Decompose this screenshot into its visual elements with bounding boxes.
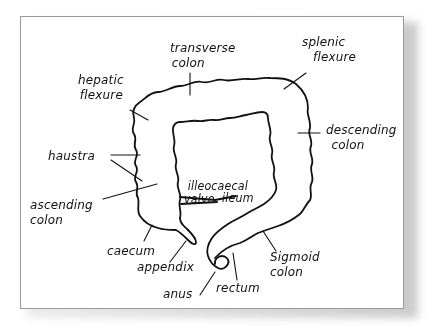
label-ascending-line2: colon <box>30 212 93 227</box>
label-anus: anus <box>163 286 192 301</box>
label-hepatic-line2: flexure <box>78 87 124 102</box>
label-descending-colon: descending colon <box>326 122 397 152</box>
label-hepatic-flexure: hepatic flexure <box>78 72 124 102</box>
label-transverse-line1: transverse <box>170 40 236 55</box>
label-sigmoid-line2: colon <box>270 264 320 279</box>
label-ascending-colon: ascending colon <box>30 197 93 227</box>
appendix-outline <box>180 218 188 230</box>
label-descending-line2: colon <box>326 137 397 152</box>
label-ileum: ileum <box>222 192 254 205</box>
label-splenic-line1: splenic <box>302 34 356 49</box>
leader-caecum <box>144 225 152 241</box>
label-splenic-flexure: splenic flexure <box>302 34 356 64</box>
label-ascending-line1: ascending <box>30 197 93 212</box>
leader-anus <box>200 272 215 295</box>
label-sigmoid-colon: Sigmoid colon <box>270 249 320 279</box>
label-hepatic-line1: hepatic <box>78 72 124 87</box>
label-sigmoid-line1: Sigmoid <box>270 249 320 264</box>
label-caecum: caecum <box>107 243 155 258</box>
leader-rectum <box>233 253 237 280</box>
label-transverse-colon: transverse colon <box>170 40 236 70</box>
label-appendix: appendix <box>137 259 194 274</box>
leader-ascending <box>103 184 157 199</box>
label-haustra: haustra <box>48 148 95 163</box>
label-rectum: rectum <box>216 280 260 295</box>
label-transverse-line2: colon <box>170 55 236 70</box>
leader-splenic <box>284 73 306 89</box>
label-splenic-line2: flexure <box>302 49 356 64</box>
label-descending-line1: descending <box>326 122 397 137</box>
leader-sigmoid <box>263 231 276 251</box>
colon-outer-outline <box>133 78 313 258</box>
